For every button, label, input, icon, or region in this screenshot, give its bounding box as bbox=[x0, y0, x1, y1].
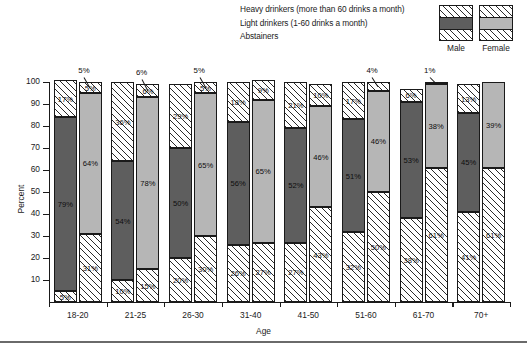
segment-26-30-female-abstainers bbox=[194, 236, 217, 302]
bar-61-70-female[interactable]: 61%38% bbox=[425, 82, 448, 302]
segment-21-25-male-abstainers bbox=[111, 280, 134, 302]
legend-entry-abstainers: Abstainers bbox=[240, 30, 436, 44]
segment-61-70-male-light bbox=[400, 102, 423, 219]
segment-61-70-female-light bbox=[425, 84, 448, 168]
plot-area: 5%79%17%31%64%5%10%54%36%15%78%6%20%50%2… bbox=[49, 82, 510, 302]
segment-61-70-female-abstainers bbox=[425, 168, 448, 302]
bar-group-70+: 41%45%13%61%39% bbox=[457, 82, 505, 302]
callout-label-26-30-female-heavy: 5% bbox=[194, 66, 205, 75]
callout-label-51-60-female-heavy: 4% bbox=[366, 66, 377, 75]
x-tick-3 bbox=[222, 302, 223, 307]
y-tick-label-30: 30 bbox=[14, 230, 40, 240]
legend-swatch-female-light bbox=[479, 17, 513, 29]
segment-31-40-male-abstainers bbox=[227, 245, 250, 302]
segment-31-40-female-heavy bbox=[252, 80, 275, 100]
y-tick-label-80: 80 bbox=[14, 120, 40, 130]
segment-18-20-female-light bbox=[79, 93, 102, 234]
segment-70+-female-light bbox=[482, 82, 505, 168]
bar-70+-male[interactable]: 41%45%13% bbox=[457, 82, 480, 302]
bar-21-25-female[interactable]: 15%78%6% bbox=[136, 82, 159, 302]
bar-41-50-female[interactable]: 43%46%10% bbox=[309, 82, 332, 302]
y-tick-label-90: 90 bbox=[14, 98, 40, 108]
legend-label-male: Male bbox=[439, 43, 473, 53]
legend-swatch-male-heavy bbox=[439, 5, 473, 17]
y-tick-label-60: 60 bbox=[14, 164, 40, 174]
y-tick-label-10: 10 bbox=[14, 274, 40, 284]
segment-70+-male-light bbox=[457, 113, 480, 212]
x-tick-2 bbox=[164, 302, 165, 307]
bar-group-31-40: 26%56%18%27%65%9% bbox=[227, 82, 275, 302]
bar-31-40-male[interactable]: 26%56%18% bbox=[227, 82, 250, 302]
y-axis-title: Percent bbox=[16, 169, 26, 229]
segment-51-60-male-abstainers bbox=[342, 232, 365, 302]
x-tick-1 bbox=[107, 302, 108, 307]
x-tick-6 bbox=[395, 302, 396, 307]
legend-entry-heavy-drinkers: Heavy drinkers (more than 60 drinks a mo… bbox=[240, 3, 436, 17]
segment-41-50-female-light bbox=[309, 106, 332, 207]
bar-26-30-male[interactable]: 20%50%29% bbox=[169, 82, 192, 302]
segment-41-50-male-light bbox=[284, 128, 307, 242]
legend-entry-light-drinkers: Light drinkers (1-60 drinks a month) bbox=[240, 17, 436, 31]
x-tick-0 bbox=[49, 302, 50, 307]
bar-18-20-female[interactable]: 31%64%5% bbox=[79, 82, 102, 302]
bar-group-18-20: 5%79%17%31%64%5% bbox=[54, 82, 102, 302]
legend-column-female: Female bbox=[479, 5, 513, 53]
legend-column-male: Male bbox=[439, 5, 473, 53]
bar-group-41-50: 27%52%21%43%46%10% bbox=[284, 82, 332, 302]
bar-31-40-female[interactable]: 27%65%9% bbox=[252, 82, 275, 302]
legend-swatch-male-light bbox=[439, 17, 473, 29]
legend-swatch-female-abstainers bbox=[479, 29, 513, 41]
x-tick-4 bbox=[280, 302, 281, 307]
bar-group-21-25: 10%54%36%15%78%6% bbox=[111, 82, 159, 302]
segment-18-20-female-abstainers bbox=[79, 234, 102, 302]
y-tick-label-40: 40 bbox=[14, 208, 40, 218]
legend-entry-list: Heavy drinkers (more than 60 drinks a mo… bbox=[240, 3, 436, 44]
segment-70+-male-abstainers bbox=[457, 212, 480, 302]
segment-21-25-male-heavy bbox=[111, 82, 134, 161]
segment-61-70-male-abstainers bbox=[400, 218, 423, 302]
chart-legend: Heavy drinkers (more than 60 drinks a mo… bbox=[240, 3, 525, 55]
segment-26-30-male-light bbox=[169, 148, 192, 258]
segment-70+-male-heavy bbox=[457, 84, 480, 113]
segment-26-30-female-light bbox=[194, 93, 217, 236]
bar-21-25-male[interactable]: 10%54%36% bbox=[111, 82, 134, 302]
y-tick-label-100: 100 bbox=[14, 76, 40, 86]
bar-18-20-male[interactable]: 5%79%17% bbox=[54, 82, 77, 302]
segment-41-50-male-heavy bbox=[284, 82, 307, 128]
x-axis-title: Age bbox=[0, 326, 527, 336]
segment-18-20-male-light bbox=[54, 117, 77, 291]
bar-51-60-female[interactable]: 50%46% bbox=[367, 82, 390, 302]
segment-26-30-male-abstainers bbox=[169, 258, 192, 302]
x-tick-7 bbox=[452, 302, 453, 307]
bar-51-60-male[interactable]: 32%51%17% bbox=[342, 82, 365, 302]
segment-18-20-male-heavy bbox=[54, 80, 77, 117]
bar-group-61-70: 38%53%6%61%38% bbox=[400, 82, 448, 302]
segment-41-50-female-heavy bbox=[309, 84, 332, 106]
segment-51-60-female-light bbox=[367, 91, 390, 192]
bar-41-50-male[interactable]: 27%52%21% bbox=[284, 82, 307, 302]
segment-21-25-male-light bbox=[111, 161, 134, 280]
y-tick-label-70: 70 bbox=[14, 142, 40, 152]
callout-label-18-20-female-heavy: 5% bbox=[78, 66, 89, 75]
stacked-bar-chart: Percent 100908070605040302010 5%79%17%31… bbox=[0, 58, 527, 308]
bar-70+-female[interactable]: 61%39% bbox=[482, 82, 505, 302]
segment-21-25-female-abstainers bbox=[136, 269, 159, 302]
page-bottom-rule bbox=[0, 341, 527, 343]
legend-label-female: Female bbox=[479, 43, 513, 53]
y-tick-label-50: 50 bbox=[14, 186, 40, 196]
bar-group-51-60: 32%51%17%50%46% bbox=[342, 82, 390, 302]
segment-18-20-male-abstainers bbox=[54, 291, 77, 302]
x-category-label-70+: 70+ bbox=[446, 310, 516, 320]
segment-41-50-female-abstainers bbox=[309, 207, 332, 302]
segment-41-50-male-abstainers bbox=[284, 243, 307, 302]
bar-61-70-male[interactable]: 38%53%6% bbox=[400, 82, 423, 302]
bar-26-30-female[interactable]: 30%65%5% bbox=[194, 82, 217, 302]
y-tick-label-20: 20 bbox=[14, 252, 40, 262]
segment-31-40-male-heavy bbox=[227, 82, 250, 122]
segment-70+-female-abstainers bbox=[482, 168, 505, 302]
segment-51-60-male-heavy bbox=[342, 82, 365, 119]
x-tick-5 bbox=[337, 302, 338, 307]
segment-31-40-male-light bbox=[227, 122, 250, 245]
legend-swatch-male-abstainers bbox=[439, 29, 473, 41]
segment-51-60-female-abstainers bbox=[367, 192, 390, 302]
